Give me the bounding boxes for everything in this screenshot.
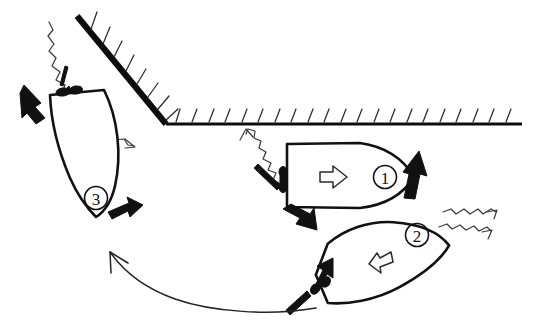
vessel-2[interactable]: 2 — [286, 218, 453, 315]
vessel-3[interactable]: 3 — [20, 66, 143, 219]
vessel-1-mooring — [254, 164, 287, 193]
vessel-3-label-text: 3 — [92, 190, 101, 209]
maneuver-path — [110, 252, 316, 312]
vessel-2-label: 2 — [406, 224, 429, 247]
diagram-canvas: 3 — [0, 0, 540, 335]
horizontal-quay — [166, 109, 522, 124]
vessel-3-stern-thrust-arrow — [20, 85, 45, 124]
vessel-3-mooring-line — [60, 66, 68, 86]
environment-arrow-vessel-1 — [240, 129, 281, 184]
vessel-1-cleat-stem — [280, 176, 286, 184]
horizontal-quay-hatching — [176, 109, 511, 122]
vessel-3-bow-thrust-arrow — [108, 197, 143, 219]
squiggle-head-1 — [240, 129, 253, 140]
vessel-3-label: 3 — [85, 187, 108, 210]
vessel-1[interactable]: 1 — [254, 143, 427, 230]
vessel-1-label: 1 — [374, 166, 397, 189]
maneuver-diagram: 3 — [0, 0, 540, 335]
maneuver-path-curve — [110, 252, 316, 312]
vessel-2-label-text: 2 — [413, 227, 422, 246]
vessel-1-mooring-line — [254, 164, 281, 190]
environment-arrows-vessel-2 — [439, 209, 497, 239]
squiggle-path-2a — [439, 224, 491, 231]
vessel-1-label-text: 1 — [381, 169, 390, 188]
